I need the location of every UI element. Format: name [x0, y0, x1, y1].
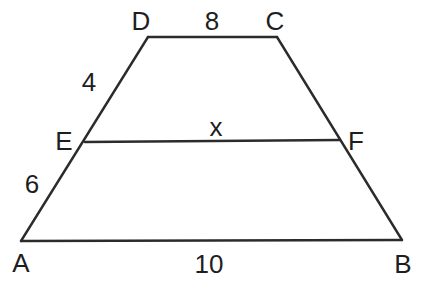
side-label-EF: x: [210, 112, 223, 142]
diagram-labels: D 8 C 4 E x F 6 A 10 B: [12, 6, 411, 279]
side-label-AB: 10: [195, 249, 224, 279]
trapezoid-figure: D 8 C 4 E x F 6 A 10 B: [0, 0, 429, 292]
edge-CB: [277, 37, 402, 240]
side-label-DE: 4: [82, 67, 96, 97]
vertex-label-D: D: [132, 6, 151, 36]
vertex-label-B: B: [394, 249, 411, 279]
side-label-EA: 6: [25, 169, 39, 199]
diagram-canvas: D 8 C 4 E x F 6 A 10 B: [0, 0, 429, 292]
edge-AB: [21, 240, 402, 241]
vertex-label-E: E: [55, 126, 72, 156]
vertex-label-A: A: [12, 248, 30, 278]
vertex-label-F: F: [348, 126, 364, 156]
vertex-label-C: C: [266, 6, 285, 36]
side-label-DC: 8: [205, 6, 219, 36]
